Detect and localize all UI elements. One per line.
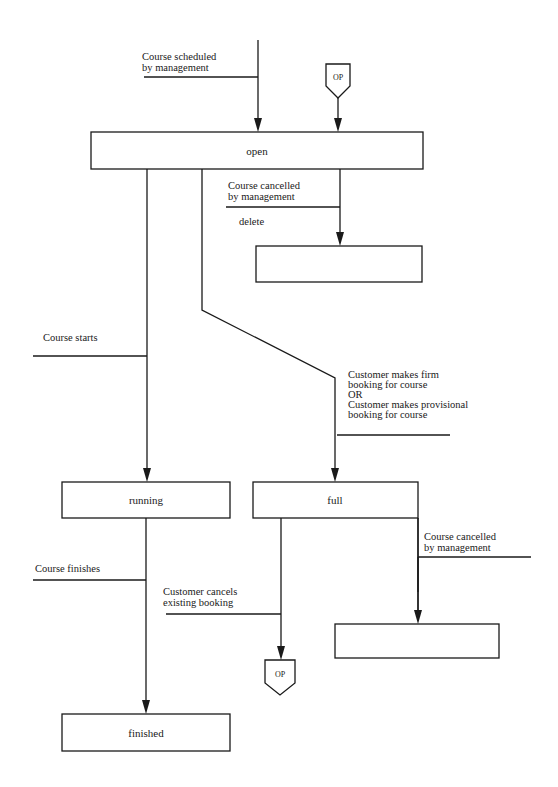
event-label: Course finishes: [35, 563, 100, 574]
event-label: Course starts: [43, 332, 98, 343]
op-connector-top: OP: [326, 64, 350, 132]
event-label: Course cancelled: [424, 531, 497, 542]
event-label: by management: [228, 191, 295, 202]
event-label: Customer cancels: [163, 586, 237, 597]
transition-cancels-booking: Customer cancels existing booking: [163, 518, 285, 660]
op-label: OP: [275, 670, 286, 679]
transition-course-starts: Course starts: [33, 169, 151, 482]
event-label: by management: [424, 542, 491, 553]
event-label: Course scheduled: [142, 51, 217, 62]
event-label: Course cancelled: [228, 180, 301, 191]
event-label: booking for course: [348, 409, 428, 420]
state-label: full: [327, 494, 342, 506]
state-label: running: [129, 494, 164, 506]
state-open: open: [91, 132, 423, 169]
state-full: full: [253, 482, 418, 518]
state-deleted: [256, 246, 422, 282]
transition-course-scheduled: Course scheduled by management: [142, 40, 262, 132]
transition-cancelled-full: Course cancelled by management: [414, 518, 531, 624]
event-label: existing booking: [163, 597, 234, 608]
state-diagram: Course scheduled by management OP open C…: [0, 0, 558, 787]
state-label: open: [246, 145, 268, 157]
state-running: running: [62, 482, 230, 518]
state-finished: finished: [62, 714, 230, 751]
op-connector-bottom: OP: [265, 660, 295, 695]
state-cancelled-full: [335, 624, 499, 658]
transition-course-finishes: Course finishes: [33, 518, 150, 714]
state-label: finished: [128, 727, 164, 739]
op-label: OP: [333, 73, 344, 82]
event-label: by management: [142, 62, 209, 73]
transition-cancelled-open: Course cancelled by management delete: [226, 169, 344, 246]
action-label: delete: [239, 216, 264, 227]
